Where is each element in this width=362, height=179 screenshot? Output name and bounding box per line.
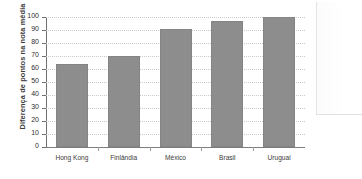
x-tick-mark	[201, 147, 202, 151]
x-axis-label: Finlândia	[98, 154, 150, 161]
y-axis-ticks: 0102030405060708090100	[0, 17, 46, 147]
x-axis-label: México	[150, 154, 202, 161]
y-tick-label: 50	[31, 77, 39, 84]
bar	[211, 21, 243, 147]
y-tick-label: 40	[31, 90, 39, 97]
y-tick-label: 0	[35, 142, 39, 149]
x-axis-label: Hong Kong	[46, 154, 98, 161]
y-tick-label: 100	[27, 12, 39, 19]
x-axis-labels: Hong KongFinlândiaMéxicoBrasilUruguai	[46, 154, 305, 168]
x-axis-label: Uruguai	[253, 154, 305, 161]
bars-layer	[46, 17, 305, 147]
y-tick-label: 60	[31, 64, 39, 71]
bar	[56, 64, 88, 147]
x-tick-mark	[150, 147, 151, 151]
x-tick-mark	[98, 147, 99, 151]
plot-area	[46, 17, 305, 147]
y-tick-label: 90	[31, 25, 39, 32]
y-tick-label: 20	[31, 116, 39, 123]
x-tick-mark	[253, 147, 254, 151]
y-tick-label: 30	[31, 103, 39, 110]
bar	[108, 56, 140, 147]
y-tick-label: 70	[31, 51, 39, 58]
bar	[263, 17, 295, 147]
y-tick-label: 10	[31, 129, 39, 136]
bar	[160, 29, 192, 147]
y-tick-label: 80	[31, 38, 39, 45]
x-axis-label: Brasil	[201, 154, 253, 161]
scan-edge-artifact	[316, 2, 362, 115]
gridline	[46, 147, 305, 148]
